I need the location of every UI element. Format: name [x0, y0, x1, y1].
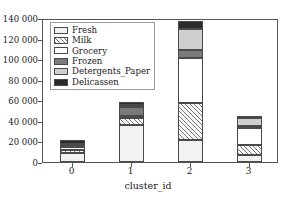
bar-segment-frozen: [60, 145, 85, 147]
y-axis-tick-label: 0: [0, 159, 38, 168]
legend-swatch-icon: [54, 58, 68, 65]
bar-segment-fresh: [178, 140, 203, 162]
legend-item-detergents_paper[interactable]: Detergents_Paper: [54, 67, 150, 77]
bar-segment-fresh: [119, 125, 144, 162]
bar-segment-detergents_paper: [178, 29, 203, 50]
bar-segment-grocery: [178, 58, 203, 103]
stacked-bar: [237, 18, 262, 162]
x-axis-label: cluster_id: [0, 181, 296, 191]
x-axis-tick-label: 1: [111, 167, 151, 176]
bar-segment-delicassen: [178, 21, 203, 29]
bar-segment-delicassen: [237, 116, 262, 118]
bar-segment-milk: [178, 103, 203, 140]
chart-legend: FreshMilkGroceryFrozenDetergents_PaperDe…: [50, 22, 155, 90]
y-axis-tick-label: 80 000: [0, 76, 38, 85]
bar-segment-grocery: [60, 147, 85, 150]
y-axis-tick-label: 60 000: [0, 97, 38, 106]
legend-item-grocery[interactable]: Grocery: [54, 46, 150, 56]
chart-figure: 020 00040 00060 00080 000100 000120 0001…: [0, 0, 296, 199]
bar-segment-fresh: [60, 153, 85, 162]
y-axis-tick-label: 20 000: [0, 138, 38, 147]
legend-item-label: Delicassen: [72, 78, 119, 87]
stacked-bar: [178, 18, 203, 162]
legend-item-delicassen[interactable]: Delicassen: [54, 77, 150, 87]
legend-item-fresh[interactable]: Fresh: [54, 25, 150, 35]
bar-segment-grocery: [119, 116, 144, 118]
legend-swatch-icon: [54, 79, 68, 86]
x-axis-tick-label: 2: [170, 167, 210, 176]
legend-item-milk[interactable]: Milk: [54, 35, 150, 45]
bar-segment-detergents_paper: [237, 118, 262, 125]
legend-swatch-icon: [54, 68, 68, 75]
bar-segment-fresh: [237, 155, 262, 162]
legend-item-label: Fresh: [72, 26, 97, 35]
y-axis-tick-label: 40 000: [0, 118, 38, 127]
bar-segment-milk: [237, 145, 262, 155]
legend-item-label: Grocery: [72, 47, 107, 56]
legend-swatch-icon: [54, 47, 68, 54]
x-axis-tick-label: 3: [229, 167, 269, 176]
legend-item-frozen[interactable]: Frozen: [54, 56, 150, 66]
bar-segment-milk: [60, 150, 85, 153]
bar-segment-delicassen: [119, 102, 144, 105]
bar-segment-frozen: [237, 126, 262, 128]
legend-swatch-icon: [54, 27, 68, 34]
bar-segment-grocery: [237, 128, 262, 145]
legend-swatch-icon: [54, 37, 68, 44]
legend-item-label: Frozen: [72, 57, 102, 66]
y-axis-tick-label: 100 000: [0, 56, 38, 65]
bar-segment-milk: [119, 118, 144, 125]
y-axis-tick-label: 140 000: [0, 15, 38, 24]
y-axis-tick-mark: [38, 163, 42, 164]
x-axis-tick-label: 0: [52, 167, 92, 176]
bar-segment-frozen: [178, 50, 203, 58]
legend-item-label: Milk: [72, 36, 92, 45]
y-axis-tick-label: 120 000: [0, 35, 38, 44]
legend-item-label: Detergents_Paper: [72, 67, 150, 76]
bar-segment-delicassen: [60, 140, 85, 143]
bar-segment-frozen: [119, 107, 144, 116]
